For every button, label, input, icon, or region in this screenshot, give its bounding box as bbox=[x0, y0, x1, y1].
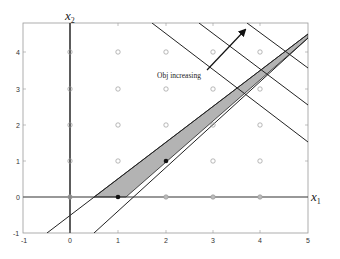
y-tick-label: 1 bbox=[16, 158, 20, 165]
feasible-point bbox=[164, 159, 169, 164]
feasible-point bbox=[116, 195, 121, 200]
y-tick-label: 0 bbox=[16, 194, 20, 201]
x-tick-label: 2 bbox=[164, 237, 168, 244]
y-tick-label: 3 bbox=[16, 86, 20, 93]
x-tick-label: 3 bbox=[211, 237, 215, 244]
y-tick-label: 2 bbox=[16, 122, 20, 129]
x-tick-label: 0 bbox=[68, 237, 72, 244]
objective-annotation: Obj increasing bbox=[157, 71, 201, 80]
x-tick-label: 5 bbox=[306, 237, 310, 244]
x-tick-label: 1 bbox=[116, 237, 120, 244]
x-tick-label: -1 bbox=[21, 237, 27, 244]
ip-diagram: -1 0 1 2 3 4 5 -1 0 1 2 3 4 x2 x1 Obj in… bbox=[0, 0, 340, 259]
x1-axis-label: x1 bbox=[310, 189, 321, 206]
y-tick-label: -1 bbox=[13, 230, 19, 237]
x2-axis-label: x2 bbox=[64, 8, 75, 25]
y-tick-label: 4 bbox=[16, 49, 20, 56]
x-tick-label: 4 bbox=[258, 237, 262, 244]
